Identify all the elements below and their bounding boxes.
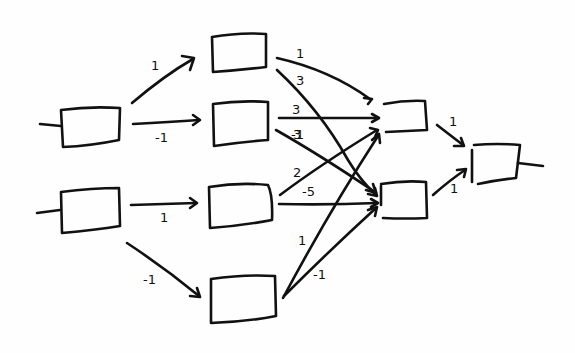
edge-h1-g1: 1 bbox=[277, 46, 372, 104]
svg-text:1: 1 bbox=[151, 58, 159, 73]
output-node bbox=[472, 144, 543, 184]
svg-text:1: 1 bbox=[450, 181, 458, 196]
hidden1-node-4 bbox=[211, 275, 276, 323]
neural-network-diagram: 1 -1 1 -1 1 3 3 3 -1 2 bbox=[0, 0, 575, 353]
edge-h2-g2: 3 -1 bbox=[276, 127, 376, 193]
edge-h3-g2: -5 bbox=[279, 184, 378, 207]
svg-text:3: 3 bbox=[296, 73, 304, 88]
svg-text:-1: -1 bbox=[291, 127, 304, 142]
svg-text:1: 1 bbox=[298, 233, 306, 248]
edge-in2-h4: -1 bbox=[127, 243, 200, 297]
edge-g1-out: 1 bbox=[437, 114, 464, 146]
hidden2-node-1 bbox=[384, 101, 427, 132]
svg-text:-1: -1 bbox=[155, 130, 168, 145]
hidden1-node-3 bbox=[209, 184, 272, 228]
svg-text:1: 1 bbox=[449, 114, 457, 129]
svg-text:3: 3 bbox=[292, 102, 300, 117]
svg-text:-5: -5 bbox=[302, 184, 315, 199]
svg-text:1: 1 bbox=[160, 210, 168, 225]
edge-h4-g2: -1 bbox=[284, 207, 377, 296]
edge-in1-h2: -1 bbox=[133, 115, 200, 145]
svg-text:-1: -1 bbox=[143, 272, 156, 287]
edge-in1-h1: 1 bbox=[132, 56, 194, 103]
edge-h2-g1: 3 bbox=[279, 102, 379, 122]
edge-in2-h3: 1 bbox=[131, 198, 197, 225]
input-node-2 bbox=[37, 188, 120, 233]
hidden2-node-2 bbox=[381, 181, 427, 218]
hidden1-node-2 bbox=[213, 101, 268, 146]
svg-text:-1: -1 bbox=[313, 267, 326, 282]
hidden1-node-1 bbox=[212, 33, 266, 72]
svg-text:2: 2 bbox=[293, 165, 301, 180]
input-node-1 bbox=[40, 107, 120, 147]
svg-text:1: 1 bbox=[296, 46, 304, 61]
edge-g2-out: 1 bbox=[433, 169, 466, 196]
